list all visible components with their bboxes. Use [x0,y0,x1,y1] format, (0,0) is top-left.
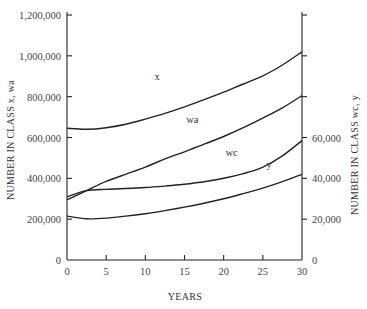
right-y-tick-label: 40,000 [312,173,341,184]
x-tick-label: 20 [218,266,229,277]
series-label-wc: wc [225,147,238,158]
plot-area: 0510152025300200,000400,000600,000800,00… [19,10,341,277]
curve-x [67,52,302,130]
chart: 0510152025300200,000400,000600,000800,00… [0,0,367,309]
series-label-wa: wa [186,114,199,125]
x-tick-label: 10 [140,266,151,277]
series-label-y: y [266,159,272,170]
right-y-tick-label: 60,000 [312,133,341,144]
left-y-tick-label: 600,000 [27,133,61,144]
x-tick-label: 30 [297,266,308,277]
x-tick-label: 25 [258,266,269,277]
curve-y [67,174,302,219]
left-y-tick-label: 400,000 [27,173,61,184]
left-y-tick-label: 1,200,000 [19,10,61,21]
left-y-tick-label: 1,000,000 [19,51,61,62]
right-y-axis-title: NUMBER IN CLASS wc, y [349,95,360,215]
x-tick-label: 15 [179,266,190,277]
right-y-tick-label: 0 [312,255,317,266]
x-tick-label: 0 [64,266,69,277]
left-y-axis-title: NUMBER IN CLASS x, wa [5,80,16,200]
right-y-tick-label: 20,000 [312,214,341,225]
x-axis-title: YEARS [168,291,202,302]
left-y-tick-label: 0 [56,255,61,266]
left-y-tick-label: 200,000 [27,214,61,225]
left-y-tick-label: 800,000 [27,92,61,103]
series-label-x: x [154,71,160,82]
x-tick-label: 5 [104,266,109,277]
